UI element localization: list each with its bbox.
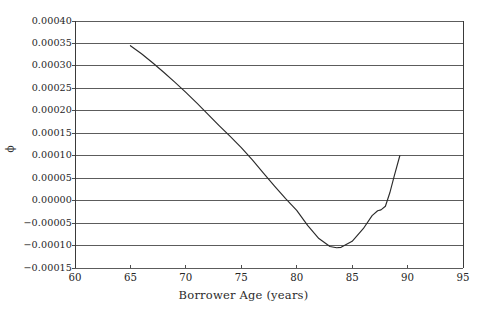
x-axis-tick-label: 80 xyxy=(277,272,317,283)
y-axis-tick-label: 0.00020 xyxy=(4,104,72,115)
x-axis-tick-label: 65 xyxy=(110,272,150,283)
y-axis-tick-label: 0.00040 xyxy=(4,15,72,26)
data-series-line xyxy=(130,46,399,248)
x-axis-tick-label: 95 xyxy=(443,272,483,283)
y-axis-label: ϕ xyxy=(2,140,20,158)
y-axis-tick-label: −0.00015 xyxy=(4,262,72,273)
y-axis-tick-label: 0.00035 xyxy=(4,37,72,48)
y-axis-tick-label: −0.00005 xyxy=(4,217,72,228)
x-axis-tick-label: 60 xyxy=(55,272,95,283)
y-axis-tick-label: 0.00000 xyxy=(4,194,72,205)
y-axis-tick-label: 0.00005 xyxy=(4,172,72,183)
x-axis-tick-label: 75 xyxy=(221,272,261,283)
chart-container: 0.000400.000350.000300.000250.000200.000… xyxy=(0,0,487,309)
y-axis-tick-label: −0.00010 xyxy=(4,239,72,250)
y-axis-tick-label: 0.00015 xyxy=(4,127,72,138)
chart-plot-svg xyxy=(0,0,487,309)
x-axis-tick-label: 85 xyxy=(332,272,372,283)
x-axis-label: Borrower Age (years) xyxy=(0,288,487,302)
x-axis-tick-label: 90 xyxy=(388,272,428,283)
y-axis-tick-label: 0.00025 xyxy=(4,82,72,93)
x-axis-tick-label: 70 xyxy=(166,272,206,283)
y-axis-tick-label: 0.00030 xyxy=(4,59,72,70)
